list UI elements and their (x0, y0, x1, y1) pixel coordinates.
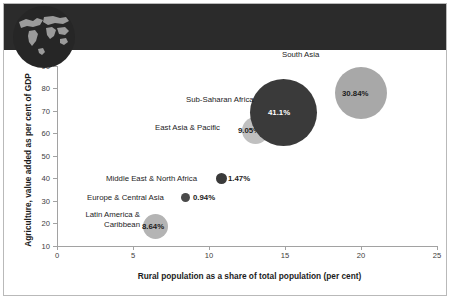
y-axis-line (57, 66, 58, 247)
x-tick-mark (209, 246, 210, 250)
y-tick-mark (53, 156, 57, 157)
y-tick-mark (53, 178, 57, 179)
y-tick-label: 80 (34, 84, 50, 93)
latin-america-label-line-1: Latin America & (85, 210, 140, 219)
x-tick-mark (133, 246, 134, 250)
bubble-value-sub-saharan-africa: 41.1% (268, 108, 290, 117)
series-label-sub-saharan-africa: Sub-Saharan Africa (186, 95, 254, 105)
y-tick-label: 70 (34, 107, 50, 116)
series-label-east-asia-pacific: East Asia & Pacific (155, 123, 220, 133)
y-tick-label: 30 (34, 197, 50, 206)
x-tick-label: 15 (276, 251, 294, 260)
x-tick-label: 10 (200, 251, 218, 260)
series-label-latin-america-caribbean: Latin America & Caribbean (60, 210, 140, 229)
y-tick-label: 10 (34, 242, 50, 251)
x-tick-label: 0 (48, 251, 66, 260)
bubble-value-latin-america-caribbean: 8.64% (142, 222, 164, 231)
bubble-value-europe-central-asia: 0.94% (193, 193, 215, 202)
x-tick-label: 20 (352, 251, 370, 260)
globe-world-map-icon (13, 6, 75, 68)
x-tick-label: 5 (124, 251, 142, 260)
y-tick-label: 40 (34, 174, 50, 183)
bubble-middle-east-north-africa[interactable] (216, 173, 227, 184)
x-tick-label: 25 (428, 251, 446, 260)
series-label-europe-central-asia: Europe & Central Asia (87, 193, 164, 203)
series-label-middle-east-north-africa: Middle East & North Africa (106, 174, 197, 184)
series-label-south-asia: South Asia (282, 50, 319, 60)
y-tick-mark (53, 133, 57, 134)
chart-figure: Share of agricultural value added in tot… (0, 0, 450, 299)
y-axis-title: Agriculture, value added as per cent of … (23, 60, 33, 260)
bubble-value-middle-east-north-africa: 1.47% (228, 174, 250, 183)
x-tick-mark (57, 246, 58, 250)
y-tick-label: 20 (34, 219, 50, 228)
y-tick-label: 50 (34, 152, 50, 161)
x-axis-title: Rural population as a share of total pop… (57, 271, 442, 281)
x-axis-line (57, 246, 438, 247)
y-tick-label: 60 (34, 129, 50, 138)
bubble-europe-central-asia[interactable] (181, 193, 190, 202)
y-tick-mark (53, 88, 57, 89)
x-tick-mark (361, 246, 362, 250)
latin-america-label-line-2: Caribbean (104, 220, 140, 229)
y-tick-mark (53, 201, 57, 202)
y-tick-mark (53, 111, 57, 112)
bubble-value-south-asia: 30.84% (342, 89, 368, 98)
x-tick-mark (285, 246, 286, 250)
y-tick-mark (53, 223, 57, 224)
x-tick-mark (437, 246, 438, 250)
